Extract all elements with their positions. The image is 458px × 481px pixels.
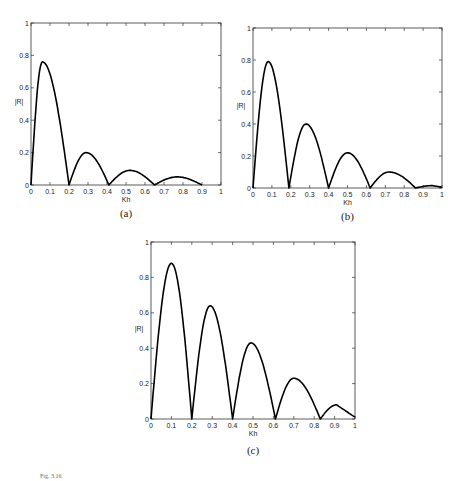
x-tick-label: 0.1	[267, 191, 277, 198]
x-tick-label: 1	[440, 191, 444, 198]
chart-panel-a: 00.10.20.30.40.50.60.70.80.9100.20.40.60…	[15, 20, 223, 221]
y-axis-label: |R|	[15, 98, 24, 106]
y-tick-label: 0.6	[139, 309, 149, 316]
y-tick-label: 0	[25, 182, 29, 189]
y-tick-label: 0.2	[19, 149, 29, 156]
figure-canvas: 00.10.20.30.40.50.60.70.80.9100.20.40.60…	[0, 0, 458, 481]
y-tick-label: 0.4	[19, 117, 29, 124]
plot-frame	[253, 28, 442, 188]
x-tick-label: 0.3	[305, 191, 315, 198]
x-tick-label: 0.4	[102, 188, 112, 195]
y-tick-label: 0.2	[241, 153, 251, 160]
x-tick-label: 0.9	[330, 422, 340, 429]
y-tick-label: 0	[247, 185, 251, 192]
chart-panel-c: 00.10.20.30.40.50.60.70.80.9100.20.40.60…	[135, 239, 357, 458]
panel-caption: (a)	[120, 207, 133, 220]
x-tick-label: 0.7	[380, 191, 390, 198]
x-tick-label: 1	[219, 188, 223, 195]
y-tick-label: 0.4	[139, 345, 149, 352]
x-tick-label: 0.2	[64, 188, 74, 195]
x-axis-label: Kh	[249, 430, 258, 437]
chart-panel-b: 00.10.20.30.40.50.60.70.80.9100.20.40.60…	[237, 25, 444, 224]
x-tick-label: 0.9	[418, 191, 428, 198]
y-tick-label: 1	[247, 25, 251, 32]
x-tick-label: 0.5	[343, 191, 353, 198]
x-tick-label: 0.6	[362, 191, 372, 198]
x-tick-label: 0.8	[399, 191, 409, 198]
x-tick-label: 0.5	[121, 188, 131, 195]
x-tick-label: 0	[251, 191, 255, 198]
x-tick-label: 0.9	[197, 188, 207, 195]
y-tick-label: 0.4	[241, 121, 251, 128]
x-axis-label: Kh	[122, 196, 131, 203]
series-line	[31, 62, 202, 185]
series-line	[253, 62, 442, 188]
panel-caption: (b)	[341, 210, 354, 223]
x-tick-label: 0.5	[248, 422, 258, 429]
x-tick-label: 0.4	[228, 422, 238, 429]
y-tick-label: 0	[145, 416, 149, 423]
x-tick-label: 0.6	[269, 422, 279, 429]
series-line	[151, 263, 355, 419]
y-tick-label: 1	[25, 20, 29, 27]
x-tick-label: 0.7	[289, 422, 299, 429]
x-tick-label: 0	[29, 188, 33, 195]
y-tick-label: 0.6	[19, 84, 29, 91]
x-tick-label: 0.8	[178, 188, 188, 195]
x-tick-label: 0.2	[187, 422, 197, 429]
x-tick-label: 0.7	[159, 188, 169, 195]
y-tick-label: 0.6	[241, 89, 251, 96]
y-axis-label: |R|	[135, 325, 144, 333]
x-tick-label: 0.2	[286, 191, 296, 198]
x-axis-label: Kh	[343, 199, 352, 206]
y-tick-label: 0.8	[19, 52, 29, 59]
x-tick-label: 0	[149, 422, 153, 429]
x-tick-label: 0.1	[167, 422, 177, 429]
y-tick-label: 1	[145, 239, 149, 246]
x-tick-label: 0.3	[207, 422, 217, 429]
x-tick-label: 0.1	[45, 188, 55, 195]
y-tick-label: 0.8	[139, 274, 149, 281]
y-tick-label: 0.2	[139, 380, 149, 387]
y-axis-label: |R|	[237, 102, 246, 110]
plot-frame	[151, 242, 355, 419]
plot-frame	[31, 23, 221, 185]
x-tick-label: 0.6	[140, 188, 150, 195]
x-tick-label: 1	[353, 422, 357, 429]
panel-caption: (c)	[247, 444, 260, 457]
x-tick-label: 0.8	[309, 422, 319, 429]
x-tick-label: 0.3	[83, 188, 93, 195]
y-tick-label: 0.8	[241, 57, 251, 64]
figure-footer: Fig. 3.16	[40, 473, 62, 479]
x-tick-label: 0.4	[324, 191, 334, 198]
